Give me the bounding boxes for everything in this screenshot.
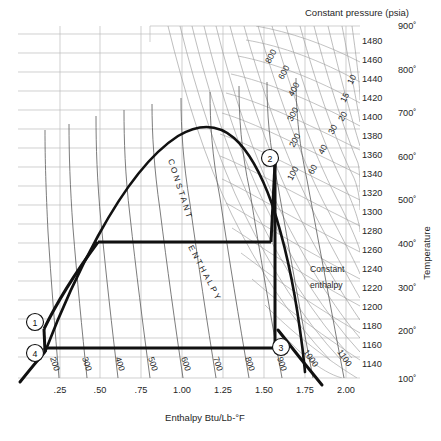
- enthalpy-tick-4: 1400: [362, 112, 382, 122]
- state-point-2-label: 2: [268, 154, 273, 164]
- y-axis-title: Temperature: [421, 226, 432, 279]
- state-point-1-label: 1: [33, 318, 38, 328]
- callout-line-2: enthalpy: [310, 280, 343, 290]
- enthalpy-tick-5: 1380: [362, 131, 382, 141]
- x-tick-7: 2.00: [337, 385, 355, 395]
- x-tick-6: 1.75: [296, 385, 314, 395]
- x-tick-2: .75: [135, 385, 148, 395]
- enthalpy-tick-1: 1460: [362, 55, 382, 65]
- temp-tick-0: 900˚: [398, 21, 416, 31]
- state-point-4-label: 4: [33, 349, 38, 359]
- chart-top-title: Constant pressure (psia): [305, 7, 409, 18]
- enthalpy-tick-8: 1320: [362, 188, 382, 198]
- state-point-3: 3: [273, 339, 290, 356]
- enthalpy-tick-6: 1360: [362, 150, 382, 160]
- x-tick-1: .50: [94, 385, 107, 395]
- enthalpy-tick-12: 1240: [362, 264, 382, 274]
- ts-diagram-chart: .25 .50 .75 1.00 1.25 1.50 1.75 2.00 Ent…: [0, 0, 441, 441]
- temp-tick-4: 500˚: [398, 195, 416, 205]
- temp-tick-5: 400˚: [398, 239, 416, 249]
- temp-tick-3: 600˚: [398, 152, 416, 162]
- enthalpy-tick-10: 1280: [362, 226, 382, 236]
- temp-tick-8: 100˚: [398, 374, 416, 384]
- enthalpy-tick-15: 1180: [362, 321, 382, 331]
- enthalpy-tick-16: 1160: [362, 340, 382, 350]
- temp-tick-6: 300˚: [398, 283, 416, 293]
- state-point-1: 1: [27, 314, 44, 331]
- temp-tick-7: 200˚: [398, 326, 416, 336]
- temp-tick-1: 800˚: [398, 65, 416, 75]
- chart-background: [0, 0, 441, 441]
- enthalpy-tick-2: 1440: [362, 74, 382, 84]
- state-point-2: 2: [262, 150, 279, 167]
- enthalpy-tick-7: 1340: [362, 169, 382, 179]
- x-tick-0: .25: [54, 385, 67, 395]
- callout-line-1: Constant: [310, 264, 345, 274]
- x-tick-4: 1.25: [214, 385, 232, 395]
- chart-canvas: .25 .50 .75 1.00 1.25 1.50 1.75 2.00 Ent…: [0, 0, 441, 441]
- enthalpy-tick-3: 1420: [362, 93, 382, 103]
- enthalpy-tick-0: 1480: [362, 36, 382, 46]
- enthalpy-tick-9: 1300: [362, 207, 382, 217]
- x-tick-5: 1.50: [255, 385, 273, 395]
- temp-tick-2: 700˚: [398, 108, 416, 118]
- enthalpy-tick-14: 1200: [362, 302, 382, 312]
- enthalpy-tick-13: 1220: [362, 283, 382, 293]
- x-axis-title: Enthalpy Btu/Lb-°F: [165, 412, 245, 423]
- state-point-3-label: 3: [279, 343, 284, 353]
- enthalpy-tick-17: 1140: [362, 359, 382, 369]
- enthalpy-tick-11: 1260: [362, 245, 382, 255]
- x-tick-3: 1.00: [173, 385, 191, 395]
- state-point-4: 4: [27, 345, 44, 362]
